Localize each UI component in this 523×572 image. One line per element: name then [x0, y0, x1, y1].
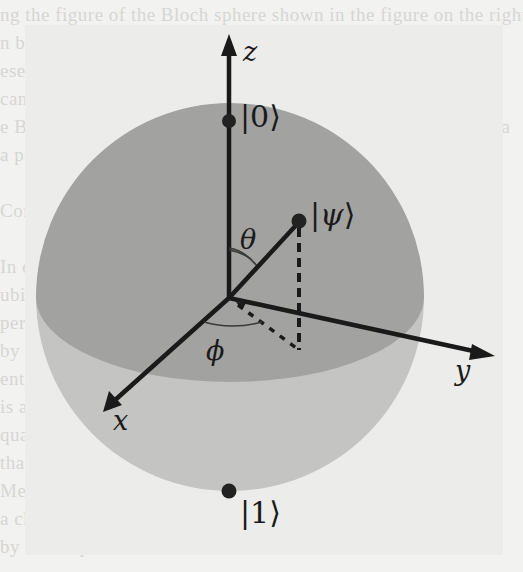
ket-symbol: ψ: [320, 197, 344, 232]
ket-bar: |: [240, 495, 250, 530]
theta-label: θ: [240, 226, 256, 253]
ket-angle: ⟩: [269, 99, 281, 134]
state-psi-label: |ψ⟩: [310, 200, 355, 230]
state-zero-label: |0⟩: [240, 102, 281, 132]
ket-bar: |: [310, 197, 320, 232]
bloch-sphere-figure: ng the figure of the Bloch sphere shown …: [0, 0, 523, 572]
ket-angle: ⟩: [269, 495, 281, 530]
state-zero-dot: [222, 114, 236, 128]
state-one-label: |1⟩: [240, 498, 281, 528]
x-axis-label: x: [113, 407, 128, 434]
state-psi-dot: [292, 214, 307, 229]
ket-bar: |: [240, 99, 250, 134]
state-one-dot: [222, 484, 237, 499]
ket-symbol: 1: [250, 495, 269, 530]
bloch-sphere-svg: [0, 0, 523, 572]
phi-label: ϕ: [206, 337, 224, 364]
y-axis-label: y: [455, 357, 470, 384]
ket-angle: ⟩: [344, 197, 356, 232]
ket-symbol: 0: [250, 99, 269, 134]
z-axis-label: z: [243, 38, 257, 65]
